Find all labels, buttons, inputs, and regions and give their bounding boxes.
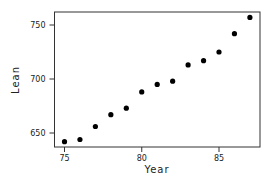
data-point (170, 79, 175, 84)
data-point (247, 15, 252, 20)
data-point (93, 124, 98, 129)
x-tick-label: 85 (214, 154, 224, 163)
data-point (186, 62, 191, 67)
data-point (62, 139, 67, 144)
data-point (155, 82, 160, 87)
data-point (139, 89, 144, 94)
y-axis-ticks: 650700750 (30, 21, 54, 138)
data-point (108, 112, 113, 117)
x-tick-label: 75 (59, 154, 69, 163)
plot-frame (55, 12, 261, 147)
y-tick-label: 750 (30, 21, 45, 30)
data-point (77, 137, 82, 142)
x-axis-ticks: 758085 (59, 147, 224, 163)
data-point (124, 106, 129, 111)
data-point (216, 49, 221, 54)
y-tick-label: 650 (30, 129, 45, 138)
x-tick-label: 80 (137, 154, 147, 163)
data-point (232, 31, 237, 36)
data-points (62, 15, 253, 144)
scatter-chart: 650700750 758085 Year Lean (0, 0, 270, 180)
x-axis-label: Year (143, 164, 169, 175)
y-axis-label: Lean (10, 66, 21, 94)
data-point (201, 58, 206, 63)
y-tick-label: 700 (30, 75, 45, 84)
